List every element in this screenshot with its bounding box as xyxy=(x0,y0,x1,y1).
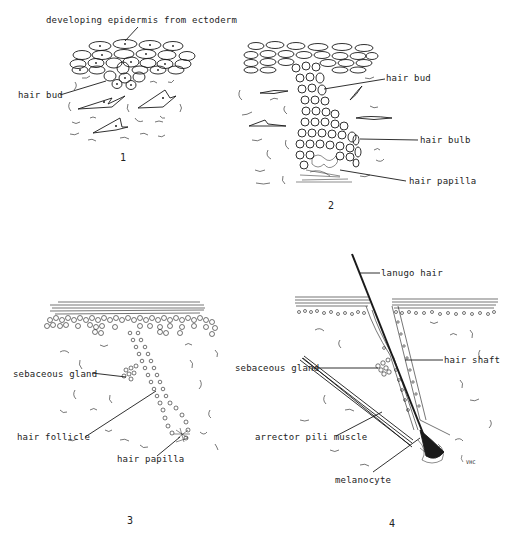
panel-3-number: 3 xyxy=(127,515,133,526)
panel-1-hair-bud-leader xyxy=(60,81,106,95)
label-hair-shaft: hair shaft xyxy=(444,355,500,365)
panel-3-stratum-corneum xyxy=(50,302,205,314)
label-lanugo-hair: lanugo hair xyxy=(381,268,443,278)
panel-1-mesenchyme-cells xyxy=(78,90,176,133)
label-arrector-pili-muscle: arrector pili muscle xyxy=(255,432,367,442)
panel-3-epidermis-cells xyxy=(45,316,218,337)
label-melanocyte: melanocyte xyxy=(335,475,391,485)
panel-3-hair-follicle-leader xyxy=(85,391,156,437)
label-sebaceous-gland-3: sebaceous gland xyxy=(13,369,97,379)
panel-3-follicle xyxy=(128,331,190,440)
label-hair-papilla-2: hair papilla xyxy=(409,176,476,186)
panel-4-number: 4 xyxy=(389,518,395,529)
panel-2-hair-bulb-leader xyxy=(360,139,418,140)
panel-2-hair-column-cells xyxy=(292,62,361,169)
label-hair-papilla-3: hair papilla xyxy=(117,454,184,464)
panel-4-fibers xyxy=(300,322,491,466)
label-hair-bulb: hair bulb xyxy=(420,135,471,145)
panel-1-epidermis-leader xyxy=(125,27,138,41)
label-hair-bud-1: hair bud xyxy=(18,90,63,100)
panel-4-epidermis-right xyxy=(392,299,498,316)
panel-4-melanocyte-leader xyxy=(373,438,420,472)
panel-4-epidermis-left xyxy=(295,297,370,316)
label-hair-bud-2: hair bud xyxy=(386,73,431,83)
artist-signature: VHC xyxy=(466,457,476,467)
panel-2-hair-papilla-leader xyxy=(340,170,406,181)
panel-2-hair-bud-leader xyxy=(324,79,385,89)
panel-2-epidermis-cells xyxy=(244,42,378,74)
hair-development-figure: developing epidermis from ectoderm hair … xyxy=(0,0,508,548)
panel-1-drawing xyxy=(60,27,195,141)
panel-2-number: 2 xyxy=(328,200,334,211)
label-sebaceous-gland-4: sebaceous gland xyxy=(235,363,319,373)
panel-2-papilla xyxy=(296,155,352,182)
label-hair-follicle: hair follicle xyxy=(17,432,90,442)
panel-2-mesenchyme-cells xyxy=(249,86,392,126)
panel-4-sebaceous-gland xyxy=(376,358,391,376)
panel-1-epidermis-cells xyxy=(70,40,195,90)
panel-4-hair-bulb xyxy=(420,430,444,458)
panel-4-lanugo-hair xyxy=(352,254,432,456)
panel-1-number: 1 xyxy=(120,152,126,163)
panel-2-drawing xyxy=(239,42,418,185)
label-developing-epidermis: developing epidermis from ectoderm xyxy=(46,15,237,25)
panel-3-sebaceous-gland xyxy=(122,364,138,381)
